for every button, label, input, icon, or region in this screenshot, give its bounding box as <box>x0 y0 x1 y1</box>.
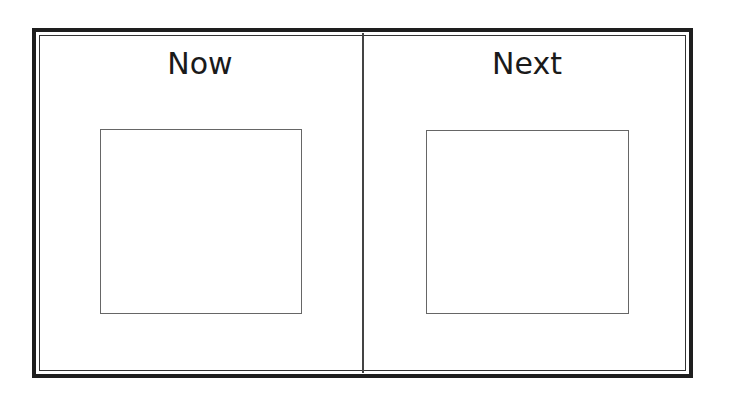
drawing-box-now <box>100 129 302 314</box>
panel-divider <box>362 33 364 373</box>
panel-title-now: Now <box>100 46 300 81</box>
drawing-box-next <box>426 130 629 314</box>
panel-title-next: Next <box>427 46 627 81</box>
